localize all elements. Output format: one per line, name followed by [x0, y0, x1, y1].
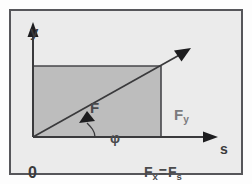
path-component-symbol: F	[168, 164, 177, 180]
force-vector-arrowhead-icon	[174, 48, 191, 62]
horizontal-component-label: Fx=Fs	[144, 165, 182, 182]
angle-label: φ	[110, 131, 120, 145]
diagram-canvas	[11, 11, 241, 173]
vertical-component-subscript: y	[183, 114, 189, 125]
vertical-component-symbol: F	[174, 106, 183, 123]
origin-label: 0	[28, 165, 37, 181]
equals-sign: =	[158, 164, 168, 180]
screenshot-root: y s 0 F Fy Fx=Fs φ	[0, 0, 252, 184]
s-axis-label: s	[220, 142, 228, 156]
figure-frame: y s 0 F Fy Fx=Fs φ	[9, 9, 243, 175]
y-axis-label: y	[30, 24, 38, 39]
horizontal-component-symbol: F	[144, 164, 153, 180]
vertical-component-label: Fy	[174, 107, 189, 125]
path-component-subscript: s	[177, 171, 182, 182]
resultant-force-label: F	[90, 100, 99, 115]
s-axis-arrowhead-icon	[203, 132, 218, 143]
